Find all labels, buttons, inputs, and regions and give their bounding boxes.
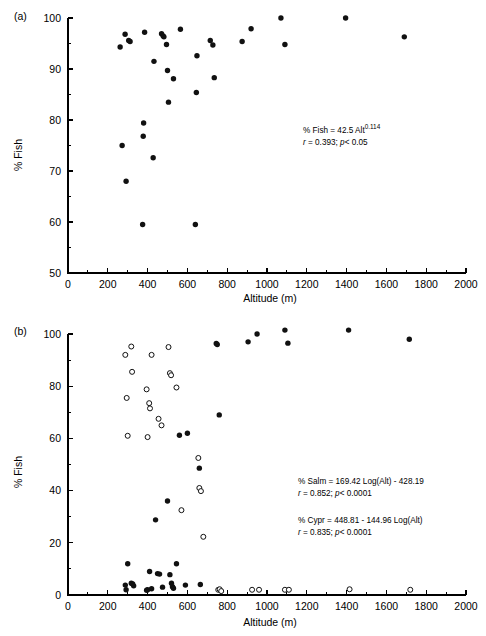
data-point-open — [250, 587, 255, 592]
x-tick-label: 1600 — [375, 278, 399, 290]
data-point-open — [144, 387, 149, 392]
data-point-filled — [171, 586, 176, 591]
data-point-open — [166, 345, 171, 350]
data-point-open — [169, 373, 174, 378]
data-point-filled — [215, 342, 220, 347]
data-point-filled — [208, 38, 213, 43]
data-point-open — [408, 587, 413, 592]
data-point-filled — [150, 155, 155, 160]
data-point-open — [201, 534, 206, 539]
data-point-filled — [165, 68, 170, 73]
data-point-filled — [149, 586, 154, 591]
data-point-open — [156, 416, 161, 421]
panel-a-tick-labels: 5060708090100020040060080010001200140016… — [43, 12, 477, 290]
panel-b-axes — [68, 334, 466, 595]
data-point-filled — [285, 340, 290, 345]
data-point-filled — [282, 327, 287, 332]
y-tick-label: 50 — [49, 267, 61, 279]
data-point-filled — [343, 15, 348, 20]
data-point-filled — [197, 465, 202, 470]
scatter-plot-a: (a) % Fish Altitude (m) 5060708090100020… — [0, 0, 486, 312]
data-point-open — [147, 406, 152, 411]
data-point-filled — [147, 569, 152, 574]
x-tick-label: 0 — [65, 278, 71, 290]
data-point-filled — [165, 498, 170, 503]
x-tick-label: 600 — [179, 600, 197, 612]
panel-b: (b) % Fish Altitude (m) 0204060801000200… — [0, 312, 486, 636]
data-point-open — [286, 587, 291, 592]
data-point-filled — [157, 571, 162, 576]
x-tick-label: 400 — [139, 600, 157, 612]
data-point-filled — [278, 15, 283, 20]
panel-a: (a) % Fish Altitude (m) 5060708090100020… — [0, 0, 486, 312]
y-tick-label: 100 — [43, 328, 61, 340]
x-tick-label: 200 — [99, 600, 117, 612]
panel-b-annotation: % Salm = 169.42 Log(Alt) - 428.19r = 0.8… — [298, 477, 424, 537]
data-point-filled — [210, 42, 215, 47]
y-tick-label: 0 — [55, 589, 61, 601]
y-tick-label: 70 — [49, 165, 61, 177]
data-point-filled — [141, 120, 146, 125]
data-point-filled — [167, 572, 172, 577]
x-tick-label: 1400 — [335, 278, 359, 290]
data-point-filled — [193, 222, 198, 227]
y-tick-label: 90 — [49, 63, 61, 75]
data-point-open — [159, 423, 164, 428]
annotation-equation-text: % Fish = 42.5 Alt — [303, 126, 365, 135]
stat-r-value: = 0.835; — [301, 528, 335, 537]
scatter-plot-b: (b) % Fish Altitude (m) 0204060801000200… — [0, 312, 486, 636]
data-point-filled — [239, 39, 244, 44]
data-point-filled — [194, 90, 199, 95]
data-point-filled — [122, 32, 127, 37]
x-tick-label: 1400 — [335, 600, 359, 612]
x-tick-label: 2000 — [454, 600, 478, 612]
y-tick-label: 60 — [49, 216, 61, 228]
data-point-filled — [142, 30, 147, 35]
panel-a-x-axis-title: Altitude (m) — [243, 292, 297, 304]
y-tick-label: 80 — [49, 380, 61, 392]
panel-a-axes — [68, 18, 466, 273]
panel-b-y-axis-title: % Fish — [12, 456, 24, 488]
annotation-equation: % Cypr = 448.81 - 144.96 Log(Alt) — [298, 516, 423, 525]
stat-r-value: = 0.393; — [306, 138, 340, 147]
annotation-equation: % Fish = 42.5 Alt0.114 — [303, 123, 381, 135]
data-point-filled — [151, 59, 156, 64]
y-tick-label: 40 — [49, 484, 61, 496]
data-point-filled — [117, 44, 122, 49]
x-tick-label: 1600 — [375, 600, 399, 612]
data-point-open — [174, 385, 179, 390]
data-point-open — [196, 455, 201, 460]
axis-spine — [68, 334, 466, 595]
axis-spine — [68, 18, 466, 273]
data-point-filled — [254, 331, 259, 336]
data-point-open — [125, 433, 130, 438]
x-tick-label: 1800 — [415, 278, 439, 290]
data-point-open — [179, 508, 184, 513]
data-point-filled — [127, 39, 132, 44]
data-point-filled — [166, 99, 171, 104]
data-point-filled — [185, 430, 190, 435]
stat-p-value: < 0.0001 — [340, 528, 373, 537]
data-point-filled — [178, 27, 183, 32]
data-point-open — [129, 344, 134, 349]
data-point-filled — [194, 53, 199, 58]
stat-p-value: < 0.0001 — [340, 489, 373, 498]
data-point-open — [219, 589, 224, 594]
x-tick-label: 400 — [139, 278, 157, 290]
data-point-filled — [282, 42, 287, 47]
data-point-filled — [125, 561, 130, 566]
stat-p-value: < 0.05 — [345, 138, 368, 147]
data-point-filled — [161, 34, 166, 39]
figure-container: (a) % Fish Altitude (m) 5060708090100020… — [0, 0, 486, 636]
x-tick-label: 1200 — [295, 278, 319, 290]
data-point-filled — [217, 412, 222, 417]
panel-b-tick-labels: 0204060801000200400600800100012001400160… — [43, 328, 477, 612]
y-tick-label: 80 — [49, 114, 61, 126]
annotation-stats: r = 0.835; p< 0.0001 — [298, 528, 372, 537]
data-point-filled — [177, 433, 182, 438]
y-tick-label: 20 — [49, 537, 61, 549]
data-point-filled — [141, 134, 146, 139]
data-point-filled — [248, 26, 253, 31]
panel-a-annotation: % Fish = 42.5 Alt0.114r = 0.393; p< 0.05 — [303, 123, 381, 147]
data-point-open — [123, 352, 128, 357]
